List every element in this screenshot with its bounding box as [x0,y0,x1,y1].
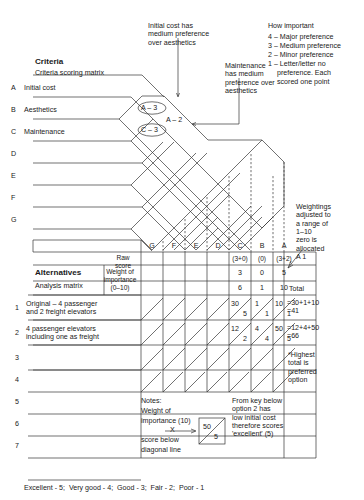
legend-item-1-cont1: preference. Each [277,69,331,77]
criteria-letter-d: D [11,150,16,158]
notes-example-upper: 50 [203,423,211,431]
legend-item-2: 2 – Minor preference [268,51,333,59]
raw-value-c: 3 [229,269,251,277]
cell-2-c-upper: 12 [227,325,243,333]
column-header-g: G [141,242,163,250]
legend-item-1-cont2: scored one point [277,78,329,86]
raw-expr-a: (3+2) [273,255,295,263]
alternatives-title: Alternatives [35,268,81,278]
alt-num-1: 1 [15,304,19,312]
criteria-letter-c: C [11,128,16,136]
alt-label-1: Original – 4 passenger and 2 freight ele… [26,300,97,317]
weight-c: 6 [229,284,251,292]
criteria-label-c: Maintenance [24,128,65,136]
alt-label-2: 4 passenger elevators including one as f… [26,325,99,342]
cell-1-b-lower: 1 [259,310,275,318]
alt-num-3: 3 [15,354,19,362]
cell-1-a-upper: 10 [271,300,287,308]
cell-1-b-upper: 1 [249,300,265,308]
alt-num-6: 6 [15,420,19,428]
annotation-highest-total: *Highest total is preferred option [288,351,317,384]
column-header-f: F [163,242,185,250]
column-header-d: D [207,242,229,250]
alt-num-2: 2 [15,329,19,337]
raw-expr-b: (0) [251,255,273,263]
diagram-root: Initial cost has medium preference over … [0,0,364,500]
criteria-letter-a: A [11,84,16,92]
cell-2-a-upper: 50 [271,325,287,333]
criteria-label-b: Aesthetics [24,106,57,114]
column-header-e: E [185,242,207,250]
cell-2-b-upper: 4 [249,325,265,333]
criteria-label-a: Initial cost [24,84,56,92]
cell-1-c-lower: 5 [237,310,253,318]
notes-line1: Weight of [141,407,171,415]
total-header: Total [289,285,304,293]
raw-value-a: 5 [273,269,295,277]
annotation-key-below: From key below option 2 has low initial … [232,397,283,439]
weight-importance-label: Weight of importance (0–10) [100,268,140,291]
column-header-c: C [229,242,251,250]
notes-example-lower: 5 [214,433,218,441]
alt-num-7: 7 [15,442,19,450]
alt-num-5: 5 [15,398,19,406]
notes-line3: score below [141,436,179,444]
scoring-key: Excellent - 5; Very good - 4; Good - 3; … [24,484,204,492]
column-header-b: B [251,242,273,250]
weight-b: 1 [251,284,273,292]
criteria-letter-e: E [11,172,16,180]
notes-line4: diagonal line [141,446,181,454]
column-header-a: A [273,242,295,250]
annotation-initial-cost: Initial cost has medium preference over … [148,22,209,47]
criteria-letter-g: G [11,216,17,224]
raw-value-b: 0 [251,269,273,277]
criteria-subtitle: Criteria scoring matrix [35,69,104,77]
raw-expr-c: (3+0) [229,255,251,263]
legend-item-3: 3 – Medium preference [268,42,341,50]
cell-1-c-upper: 30 [227,300,243,308]
notes-multiply: X [170,426,175,434]
alternatives-subtitle: Analysis matrix [35,282,83,290]
notes-line2: importance (10) [141,417,191,425]
total-2: =12+4+50 =66 [287,324,319,341]
notes-heading: Notes: [141,397,162,405]
annotation-weightings: Weightings adjusted to a range of 1–10 z… [296,203,331,262]
legend-item-4: 4 – Major preference [268,33,333,41]
criteria-title: Criteria [35,57,63,67]
criteria-letter-f: F [11,194,15,202]
legend-item-1: 1 – Letter/letter no [268,60,326,68]
cell-2-b-lower: 4 [259,335,275,343]
total-1: =30+1+10 =41 [287,299,319,316]
cell-2-c-lower: 2 [237,335,253,343]
legend-title: How important [268,22,314,30]
alt-num-4: 4 [15,376,19,384]
lattice-label-a2: A – 2 [166,116,182,124]
lattice-label-a3: A – 3 [141,104,157,112]
lattice-label-c3: C – 3 [141,126,158,134]
criteria-letter-b: B [11,106,16,114]
